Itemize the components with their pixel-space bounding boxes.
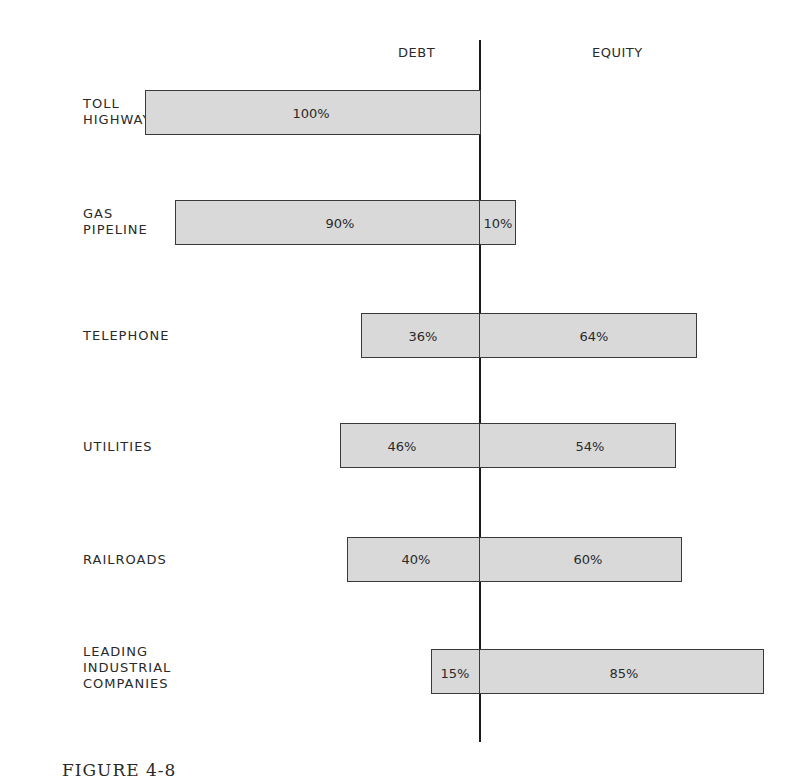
category-label: GAS PIPELINE xyxy=(83,206,148,238)
center-divider xyxy=(479,40,481,742)
equity-value: 10% xyxy=(484,216,513,231)
equity-value: 64% xyxy=(580,329,609,344)
debt-header: DEBT xyxy=(398,45,435,60)
debt-value: 46% xyxy=(388,439,417,454)
figure-caption: FIGURE 4-8 xyxy=(62,760,176,780)
debt-value: 36% xyxy=(409,329,438,344)
equity-header: EQUITY xyxy=(592,45,643,60)
equity-value: 60% xyxy=(574,552,603,567)
category-label: TOLL HIGHWAY xyxy=(83,96,151,128)
equity-value: 54% xyxy=(576,439,605,454)
category-label: TELEPHONE xyxy=(83,328,169,344)
equity-value: 85% xyxy=(610,666,639,681)
debt-value: 40% xyxy=(402,552,431,567)
debt-value: 15% xyxy=(441,666,470,681)
debt-value: 100% xyxy=(292,106,329,121)
category-label: UTILITIES xyxy=(83,439,153,455)
category-label: LEADING INDUSTRIAL COMPANIES xyxy=(83,644,171,692)
debt-value: 90% xyxy=(326,216,355,231)
category-label: RAILROADS xyxy=(83,552,167,568)
